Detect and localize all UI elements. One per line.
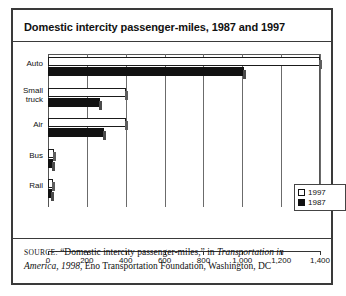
- bar-shadow: [51, 192, 54, 201]
- legend-label: 1987: [308, 198, 326, 207]
- category-label-line: Small: [0, 86, 43, 95]
- category-label: Smalltruck: [0, 86, 43, 104]
- bar-1987: [48, 128, 104, 137]
- bar-pair: [48, 179, 320, 210]
- bar-1997: [48, 57, 320, 66]
- category-label: Air: [0, 120, 43, 129]
- bar-1997: [48, 88, 126, 97]
- title-divider: [13, 41, 331, 42]
- bar-1987: [48, 67, 244, 76]
- source-prefix: SOURCE:: [24, 248, 58, 257]
- bar-shadow: [52, 182, 55, 191]
- source-note: SOURCE: “Domestic intercity passenger-mi…: [24, 246, 316, 272]
- legend-entry: 1997: [298, 188, 342, 197]
- source-divider: [13, 238, 331, 239]
- bar-1997: [48, 149, 54, 158]
- source-tail: , Eno Transportation Foundation, Washing…: [80, 261, 271, 271]
- plot-area: AutoSmalltruckAirBusRail 02004006008001,…: [48, 54, 320, 207]
- chart-legend: 19971987: [294, 184, 346, 211]
- black-square-icon: [298, 199, 305, 206]
- legend-label: 1997: [308, 188, 326, 197]
- bar-pair: [48, 88, 320, 119]
- bar-1997: [48, 179, 53, 188]
- category-label: Auto: [0, 59, 43, 68]
- bar-shadow: [125, 121, 128, 130]
- source-quoted-title: “Domestic intercity passenger-miles,”: [60, 247, 205, 257]
- legend-entry: 1987: [298, 198, 342, 207]
- bar-shadow: [125, 91, 128, 100]
- bar-shadow: [53, 152, 56, 161]
- bar-shadow: [319, 60, 322, 69]
- bar-shadow: [243, 70, 246, 79]
- white-square-icon: [298, 189, 305, 196]
- bar-1997: [48, 118, 126, 127]
- bar-1987: [48, 159, 53, 168]
- bar-pair: [48, 149, 320, 180]
- chart-title: Domestic intercity passenger-miles, 1987…: [24, 21, 324, 33]
- category-label: Rail: [0, 181, 43, 190]
- category-label: Bus: [0, 151, 43, 160]
- bar-1987: [48, 98, 100, 107]
- category-label-line: truck: [0, 95, 43, 104]
- bar-shadow: [99, 101, 102, 110]
- bar-1987: [48, 189, 52, 198]
- bar-shadow: [52, 162, 55, 171]
- figure-frame: Domestic intercity passenger-miles, 1987…: [11, 8, 333, 285]
- bar-pair: [48, 57, 320, 88]
- bar-shadow: [103, 131, 106, 140]
- tick-mark: [320, 251, 321, 255]
- bar-pair: [48, 118, 320, 149]
- source-connector: in: [207, 247, 214, 257]
